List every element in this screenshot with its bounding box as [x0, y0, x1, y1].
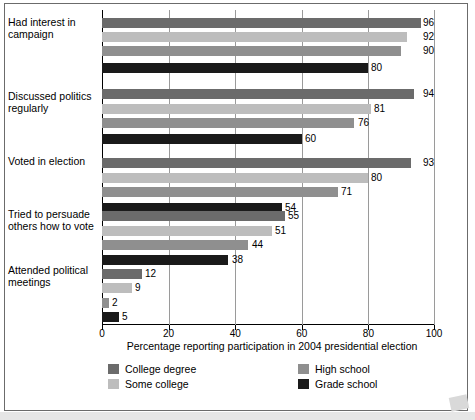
legend-swatch-some-college [108, 379, 119, 389]
bar-value-g3-college-degree: 55 [288, 211, 299, 221]
legend-item-college-degree: College degree [108, 363, 196, 375]
bar-value-g0-some-college: 92 [423, 32, 434, 42]
bar-g2-college-degree [102, 158, 411, 168]
group-label-3: Tried to persuade others how to vote [8, 208, 100, 232]
group-label-2: Voted in election [8, 155, 100, 167]
bar-value-g1-college-degree: 94 [423, 89, 434, 99]
bar-value-g2-some-college: 80 [371, 173, 382, 183]
group-label-3-line2: others how to vote [8, 220, 100, 232]
bar-g1-college-degree [102, 89, 414, 99]
legend-item-some-college: Some college [108, 378, 189, 390]
legend-label-some-college: Some college [125, 378, 189, 390]
group-label-0: Had interest in campaign [8, 16, 100, 40]
group-label-1-line1: Discussed politics [8, 90, 100, 102]
legend-row-1: College degree High school [108, 363, 438, 378]
group-label-4-line2: meetings [8, 276, 100, 288]
xtick-label-40: 40 [220, 328, 250, 339]
bar-g2-some-college [102, 173, 368, 183]
bar-g3-grade-school [102, 255, 228, 265]
x-axis-title: Percentage reporting participation in 20… [102, 340, 442, 352]
legend-item-high-school: High school [298, 363, 370, 375]
bar-value-g1-some-college: 81 [374, 104, 385, 114]
bar-g4-college-degree [102, 269, 142, 279]
bar-value-g1-high-school: 76 [358, 118, 369, 128]
bar-value-g4-some-college: 9 [135, 283, 141, 293]
xtick-label-80: 80 [353, 328, 383, 339]
xtick-label-100: 100 [419, 328, 449, 339]
bar-g3-high-school [102, 240, 248, 250]
bar-g0-college-degree [102, 18, 421, 28]
bar-value-g3-grade-school: 38 [232, 255, 243, 265]
bar-value-g4-grade-school: 5 [122, 312, 128, 322]
scan-artifact-bottom [0, 412, 475, 420]
bar-g4-grade-school [102, 312, 119, 322]
group-label-0-line1: Had interest in [8, 16, 100, 28]
xtick-label-60: 60 [287, 328, 317, 339]
bar-g1-some-college [102, 104, 371, 114]
bar-value-g4-college-degree: 12 [145, 269, 156, 279]
legend-label-college-degree: College degree [125, 363, 196, 375]
bar-value-g3-some-college: 51 [275, 226, 286, 236]
bar-g4-some-college [102, 283, 132, 293]
xtick-label-20: 20 [154, 328, 184, 339]
group-label-0-line2: campaign [8, 28, 100, 40]
group-label-1-line2: regularly [8, 102, 100, 114]
bar-g3-college-degree [102, 211, 285, 221]
chart-figure: Had interest in campaign Discussed polit… [0, 0, 475, 420]
bar-g0-grade-school [102, 63, 368, 73]
bar-g4-high-school [102, 298, 109, 308]
group-label-4: Attended political meetings [8, 264, 100, 288]
legend-item-grade-school: Grade school [298, 378, 377, 390]
bar-value-g0-high-school: 90 [423, 46, 434, 56]
group-label-1: Discussed politics regularly [8, 90, 100, 114]
xtick-label-0: 0 [87, 328, 117, 339]
bar-value-g4-high-school: 2 [112, 298, 118, 308]
gridline-100 [434, 10, 435, 325]
bar-value-g2-high-school: 71 [341, 187, 352, 197]
bar-g1-grade-school [102, 134, 302, 144]
chart-legend: College degree High school Some college … [108, 363, 438, 393]
legend-label-grade-school: Grade school [315, 378, 377, 390]
legend-swatch-grade-school [298, 379, 309, 389]
group-label-3-line1: Tried to persuade [8, 208, 100, 220]
plot-area: 0 20 40 60 80 100 96 92 90 80 94 81 76 6… [102, 10, 435, 325]
bar-value-g0-grade-school: 80 [371, 63, 382, 73]
group-label-4-line1: Attended political [8, 264, 100, 276]
bar-g0-high-school [102, 46, 401, 56]
bar-value-g2-college-degree: 93 [423, 158, 434, 168]
legend-swatch-high-school [298, 364, 309, 374]
group-label-2-line1: Voted in election [8, 155, 100, 167]
bar-g3-some-college [102, 226, 272, 236]
legend-swatch-college-degree [108, 364, 119, 374]
bar-value-g1-grade-school: 60 [305, 134, 316, 144]
bar-value-g3-high-school: 44 [252, 240, 263, 250]
bar-value-g0-college-degree: 96 [423, 18, 434, 28]
legend-row-2: Some college Grade school [108, 378, 438, 393]
bar-g1-high-school [102, 118, 354, 128]
legend-label-high-school: High school [315, 363, 370, 375]
bar-g2-high-school [102, 187, 338, 197]
bar-g0-some-college [102, 32, 407, 42]
